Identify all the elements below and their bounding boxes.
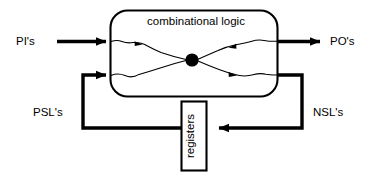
diagram-canvas: combinational logic PI's PO's PSL's bbox=[0, 0, 380, 179]
junction-dot bbox=[185, 53, 198, 66]
po-label: PO's bbox=[330, 35, 355, 47]
combinational-logic-label: combinational logic bbox=[147, 15, 245, 27]
pi-label: PI's bbox=[16, 35, 35, 47]
block-diagram-svg: combinational logic PI's PO's PSL's bbox=[0, 0, 380, 179]
registers-label: registers bbox=[184, 114, 196, 158]
psl-label: PSL's bbox=[33, 106, 63, 118]
nsl-label: NSL's bbox=[313, 106, 344, 118]
